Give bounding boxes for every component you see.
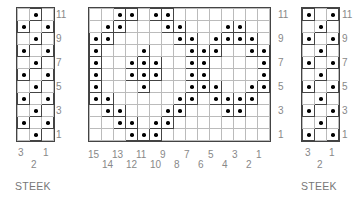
stitch-dot — [150, 69, 162, 81]
stitch-empty — [198, 9, 210, 21]
stitch-empty — [315, 105, 327, 117]
stitch-empty — [102, 45, 114, 57]
stitch-empty — [138, 9, 150, 21]
left-steek-grid — [16, 7, 55, 142]
col-label: 4 — [222, 160, 228, 170]
col-label: 14 — [102, 160, 113, 170]
stitch-dot — [186, 57, 198, 69]
stitch-empty — [42, 129, 54, 141]
stitch-empty — [234, 45, 246, 57]
stitch-dot — [210, 93, 222, 105]
stitch-empty — [222, 45, 234, 57]
stitch-empty — [186, 9, 198, 21]
stitch-empty — [234, 69, 246, 81]
stitch-empty — [90, 21, 102, 33]
stitch-empty — [210, 9, 222, 21]
stitch-dot — [42, 45, 54, 57]
stitch-dot — [258, 69, 270, 81]
stitch-dot — [126, 9, 138, 21]
col-label: 7 — [184, 150, 190, 160]
stitch-empty — [30, 93, 42, 105]
stitch-empty — [315, 33, 327, 45]
stitch-empty — [246, 117, 258, 129]
stitch-empty — [162, 45, 174, 57]
stitch-empty — [315, 81, 327, 93]
right-steek-grid — [301, 7, 340, 142]
stitch-dot — [90, 69, 102, 81]
stitch-empty — [150, 81, 162, 93]
stitch-empty — [42, 33, 54, 45]
stitch-dot — [210, 45, 222, 57]
stitch-dot — [186, 45, 198, 57]
col-label: 13 — [112, 150, 123, 160]
col-label: 1 — [43, 148, 49, 158]
stitch-empty — [150, 21, 162, 33]
row-label: 5 — [278, 82, 284, 92]
stitch-dot — [102, 21, 114, 33]
right-steek-label: STEEK — [301, 180, 337, 192]
stitch-empty — [210, 21, 222, 33]
stitch-dot — [327, 81, 339, 93]
stitch-dot — [258, 81, 270, 93]
stitch-dot — [222, 21, 234, 33]
stitch-empty — [150, 45, 162, 57]
row-label: 1 — [342, 130, 348, 140]
stitch-dot — [327, 129, 339, 141]
col-label: 11 — [136, 150, 146, 160]
stitch-empty — [186, 105, 198, 117]
col-label: 1 — [256, 150, 262, 160]
stitch-empty — [114, 81, 126, 93]
stitch-empty — [303, 21, 315, 33]
stitch-empty — [42, 105, 54, 117]
stitch-dot — [162, 9, 174, 21]
stitch-empty — [102, 9, 114, 21]
stitch-empty — [18, 57, 30, 69]
stitch-dot — [186, 93, 198, 105]
stitch-empty — [18, 81, 30, 93]
stitch-empty — [198, 105, 210, 117]
stitch-empty — [114, 45, 126, 57]
stitch-empty — [114, 57, 126, 69]
stitch-empty — [327, 93, 339, 105]
stitch-dot — [30, 81, 42, 93]
col-label: 15 — [88, 150, 99, 160]
stitch-empty — [246, 105, 258, 117]
stitch-empty — [234, 57, 246, 69]
stitch-empty — [198, 117, 210, 129]
stitch-dot — [126, 57, 138, 69]
stitch-empty — [138, 93, 150, 105]
row-label: 3 — [56, 106, 62, 116]
stitch-empty — [246, 57, 258, 69]
stitch-dot — [186, 33, 198, 45]
stitch-dot — [258, 45, 270, 57]
stitch-empty — [138, 117, 150, 129]
stitch-dot — [162, 105, 174, 117]
row-label: 7 — [278, 58, 284, 68]
stitch-empty — [126, 33, 138, 45]
stitch-dot — [327, 57, 339, 69]
stitch-empty — [126, 93, 138, 105]
stitch-empty — [114, 129, 126, 141]
stitch-dot — [42, 69, 54, 81]
stitch-dot — [174, 33, 186, 45]
stitch-dot — [114, 117, 126, 129]
stitch-dot — [246, 81, 258, 93]
stitch-empty — [186, 117, 198, 129]
stitch-empty — [102, 129, 114, 141]
stitch-dot — [18, 117, 30, 129]
stitch-empty — [30, 69, 42, 81]
col-label: 6 — [198, 160, 204, 170]
stitch-dot — [138, 129, 150, 141]
stitch-dot — [327, 9, 339, 21]
stitch-empty — [303, 93, 315, 105]
stitch-dot — [222, 33, 234, 45]
col-label: 10 — [150, 160, 161, 170]
stitch-empty — [174, 129, 186, 141]
stitch-empty — [90, 105, 102, 117]
col-label: 1 — [329, 148, 335, 158]
stitch-dot — [18, 69, 30, 81]
stitch-empty — [222, 69, 234, 81]
stitch-empty — [102, 81, 114, 93]
stitch-empty — [234, 81, 246, 93]
stitch-empty — [198, 129, 210, 141]
